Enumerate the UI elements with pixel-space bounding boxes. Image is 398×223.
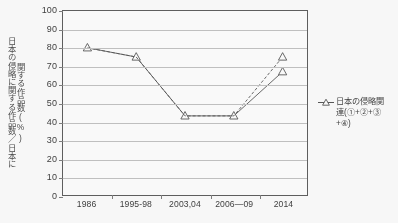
legend-label-line-3: +④) [336,118,385,129]
y-axis-tick-label: 20 [47,154,57,164]
data-point-marker [83,43,91,50]
data-point-marker [278,53,286,60]
x-axis-tick-label: 2003,04 [169,199,201,209]
y-axis-tick-label: 10 [47,172,57,182]
y-axis-tick-label: 30 [47,135,57,145]
y-axis-tick [59,178,63,179]
y-axis-tick [59,197,63,198]
y-axis-tick-label: 60 [47,79,57,89]
series-line [87,48,282,116]
y-axis-tick [59,85,63,86]
x-axis-tick-label: 1986 [77,199,97,209]
legend-label-line-2: 連(①+②+③ [336,107,385,118]
series-line [87,48,282,116]
gridline [63,160,307,161]
y-axis-tick-label: 100 [42,5,57,15]
gridline [63,85,307,86]
legend-label: 日本の侵略関 連(①+②+③ +④) [336,96,385,129]
y-axis-title: 日本の侵略に関する作品数／日本に 関する作品数(%) [0,0,30,205]
data-point-marker [278,67,286,74]
y-axis-tick-label: 40 [47,117,57,127]
y-axis-tick [59,11,63,12]
x-axis-tick-label: 2006—09 [215,199,253,209]
y-axis-tick-label: 70 [47,61,57,71]
y-axis-tick-label: 80 [47,42,57,52]
y-axis-tick-labels: 0102030405060708090100 [30,10,60,196]
y-axis-tick [59,30,63,31]
y-axis-title-line-1: 日本の侵略に関する作品数／日本に [5,37,15,168]
x-axis-tick-label: 2014 [274,199,294,209]
y-axis-title-line-2: 関する作品数(%) [15,63,25,143]
gridline [63,67,307,68]
y-axis-tick [59,67,63,68]
chart-legend: 日本の侵略関 連(①+②+③ +④) [318,96,398,129]
gridline [63,141,307,142]
y-axis-tick-label: 90 [47,24,57,34]
y-axis-tick [59,104,63,105]
y-axis-tick-label: 0 [52,191,57,201]
y-axis-tick [59,141,63,142]
gridline [63,123,307,124]
plot-area [62,10,308,196]
legend-label-line-1: 日本の侵略関 [336,96,385,107]
x-axis-tick-label: 1995-98 [120,199,152,209]
legend-marker-triangle-icon [318,97,334,108]
y-axis-tick [59,160,63,161]
gridline [63,178,307,179]
data-series-layer [63,11,307,195]
y-axis-tick-label: 50 [47,98,57,108]
x-axis-tick-labels: 19861995-982003,042006—092014 [62,199,308,219]
gridline [63,104,307,105]
gridline [63,30,307,31]
gridline [63,48,307,49]
chart-screenshot: 日本の侵略に関する作品数／日本に 関する作品数(%) 0102030405060… [0,0,398,223]
y-axis-tick [59,123,63,124]
y-axis-tick [59,48,63,49]
